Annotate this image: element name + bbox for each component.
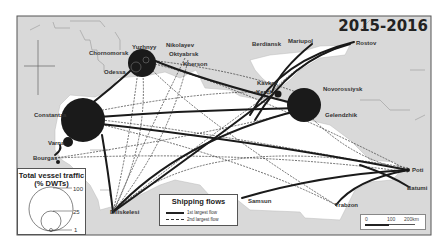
- port-varna-marker: [63, 137, 73, 147]
- label-kerch: Kerch: [256, 89, 273, 95]
- label-diliskelesi: Diliskelesi: [110, 209, 140, 215]
- label-nikolayev: Nikolayev: [166, 42, 195, 48]
- scale-bar: 0 100 200km: [360, 214, 426, 230]
- legend-flow-2nd: 2nd largest flow: [166, 217, 219, 222]
- legend-flows-title: Shipping flows: [160, 197, 237, 206]
- port-constantza-marker: [61, 98, 105, 142]
- port-novorossiysk-marker: [287, 88, 321, 122]
- legend-size-1: 1: [74, 227, 78, 233]
- label-poti: Poti: [412, 167, 424, 173]
- scale-tick-0: 0: [365, 216, 368, 222]
- solid-line-icon: [166, 212, 184, 214]
- label-samsun: Samsun: [248, 198, 272, 204]
- label-chornomorsk: Chornomorsk: [89, 50, 129, 56]
- scale-tick-100: 100: [387, 216, 395, 222]
- dashed-line-icon: [166, 219, 184, 220]
- label-trabzon: Trabzon: [335, 202, 358, 208]
- label-berdiansk: Berdiansk: [252, 41, 282, 47]
- label-mariupol: Mariupol: [288, 38, 313, 44]
- legend-size-circles: 100 25 1: [18, 169, 87, 236]
- map-title: 2015-2016: [338, 17, 428, 35]
- port-yuzhnyy-odessa-marker: [128, 49, 156, 77]
- label-rostov: Rostov: [356, 40, 377, 46]
- legend-size-25: 25: [73, 209, 80, 215]
- label-kavkaz: Kavkaz: [257, 80, 278, 86]
- legend-shipping-flows: Shipping flows 1st largest flow 2nd larg…: [159, 194, 238, 226]
- label-yuzhnyy: Yuzhnyy: [132, 44, 157, 50]
- port-kerch-marker: [275, 91, 282, 98]
- label-varna: Varna: [48, 140, 65, 146]
- label-constantza: Constantza: [34, 112, 67, 118]
- scale-tick-200: 200km: [404, 216, 419, 222]
- label-odessa: Odessa: [104, 69, 126, 75]
- label-novorossiysk: Novorossiysk: [323, 86, 363, 92]
- legend-vessel-traffic: Total vessel traffic (% DWTs) 100 25 1: [17, 168, 86, 235]
- legend-size-100: 100: [73, 186, 84, 192]
- label-kherson: Kherson: [183, 61, 208, 67]
- legend-flow-1st: 1st largest flow: [166, 210, 217, 215]
- port-poti-marker: [406, 168, 410, 172]
- label-batumi: Batumi: [407, 185, 428, 191]
- label-oktyabrsk: Oktyabrsk: [169, 51, 199, 57]
- label-gelendzhik: Gelendzhik: [325, 112, 358, 118]
- label-bourgas: Bourgas: [33, 155, 58, 161]
